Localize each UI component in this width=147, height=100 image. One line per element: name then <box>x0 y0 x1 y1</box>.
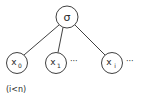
edge-root-x0 <box>24 25 59 55</box>
root-label: σ <box>64 11 71 24</box>
ellipsis: ··· <box>70 57 78 66</box>
child-subscript: 1 <box>57 62 61 69</box>
tree-diagram: σ x 0 x 1 ··· x i ··· (i<n) <box>0 0 147 100</box>
child-label: x <box>50 57 56 67</box>
child-subscript: 0 <box>18 62 22 69</box>
child-node-x0: x 0 <box>7 53 28 74</box>
child-label: x <box>11 57 17 67</box>
child-node-x1: x 1 ··· <box>46 53 78 74</box>
condition-label: (i<n) <box>6 85 26 94</box>
root-node: σ <box>56 6 78 28</box>
child-label: x <box>106 57 112 67</box>
ellipsis: ··· <box>126 57 134 66</box>
child-node-xi: x i ··· <box>102 53 134 74</box>
edge-root-xi <box>75 25 105 55</box>
edge-root-x1 <box>58 28 63 53</box>
